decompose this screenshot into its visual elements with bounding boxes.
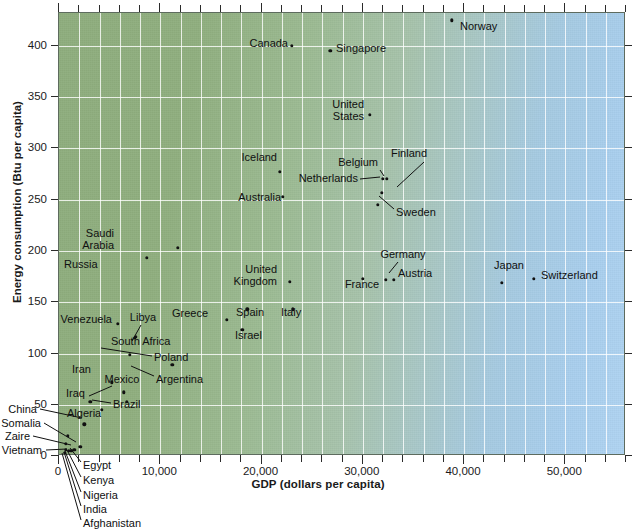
x-axis-tick-top <box>342 5 343 12</box>
point-label: Afghanistan <box>83 518 141 530</box>
x-axis-tick-top <box>200 5 201 12</box>
y-axis-tick-right <box>625 45 632 46</box>
x-axis-tick <box>605 455 606 462</box>
vertical-gridline <box>160 13 161 454</box>
x-axis-tick-top <box>564 3 565 12</box>
vertical-gridline <box>221 13 222 454</box>
x-tick-label: 10,000 <box>142 465 177 477</box>
x-axis-tick-top <box>281 5 282 12</box>
y-axis-tick <box>51 455 58 456</box>
point-label: South Africa <box>111 336 170 348</box>
data-point <box>63 451 66 454</box>
x-axis-tick <box>483 455 484 462</box>
x-axis-tick <box>443 455 444 462</box>
x-axis-tick-top <box>423 5 424 12</box>
vertical-gridline <box>282 13 283 454</box>
x-axis-tick <box>240 455 241 462</box>
x-axis-tick-top <box>504 5 505 12</box>
horizontal-gridline <box>59 354 624 355</box>
x-axis-tick <box>564 455 565 464</box>
point-label: Norway <box>460 21 497 33</box>
x-tick-label: 40,000 <box>445 465 480 477</box>
x-axis-tick-top <box>119 5 120 12</box>
vertical-gridline <box>424 13 425 454</box>
point-label: Canada <box>249 38 288 50</box>
point-label: United Kingdom <box>234 264 277 287</box>
plot-texture-overlay <box>59 13 624 454</box>
vertical-gridline <box>606 13 607 454</box>
x-axis-tick <box>625 455 626 462</box>
point-label: Russia <box>64 259 98 271</box>
point-label: India <box>83 504 107 516</box>
x-axis-tick <box>382 455 383 462</box>
y-axis-tick <box>51 199 58 200</box>
x-axis-tick-top <box>261 3 262 12</box>
x-axis-tick-top <box>139 5 140 12</box>
x-axis-tick-top <box>524 5 525 12</box>
point-label: Libya <box>130 312 156 324</box>
vertical-gridline <box>403 13 404 454</box>
point-label: Venezuela <box>61 314 112 326</box>
vertical-gridline <box>586 13 587 454</box>
x-axis-tick <box>180 455 181 462</box>
vertical-gridline <box>363 13 364 454</box>
horizontal-gridline <box>59 302 624 303</box>
horizontal-gridline <box>59 405 624 406</box>
y-axis-tick-right <box>625 250 632 251</box>
vertical-gridline <box>262 13 263 454</box>
point-label: France <box>345 279 379 291</box>
point-label: Germany <box>380 249 425 261</box>
x-tick-label: 30,000 <box>344 465 379 477</box>
x-axis-tick <box>362 455 363 464</box>
x-axis-tick <box>261 455 262 464</box>
y-tick-label: 350 <box>0 90 47 102</box>
vertical-gridline <box>140 13 141 454</box>
y-axis-tick <box>51 250 58 251</box>
point-label: Mexico <box>105 374 140 386</box>
point-label: Italy <box>281 307 301 319</box>
x-tick-label: 0 <box>55 465 61 477</box>
x-axis-tick-top <box>463 3 464 12</box>
y-axis-title: Energy consumption (Btu per capita) <box>11 87 23 317</box>
point-label: China <box>8 404 37 416</box>
horizontal-gridline <box>59 251 624 252</box>
x-axis-tick <box>544 455 545 462</box>
y-axis-tick-right <box>625 455 632 456</box>
x-axis-tick <box>463 455 464 464</box>
x-axis-tick <box>281 455 282 462</box>
point-label: Greece <box>172 308 208 320</box>
horizontal-gridline <box>59 200 624 201</box>
point-label: Sweden <box>396 207 436 219</box>
y-axis-tick-right <box>625 353 632 354</box>
y-axis-tick-right <box>625 199 632 200</box>
x-axis-tick <box>423 455 424 462</box>
point-label: Belgium <box>338 157 378 169</box>
y-axis-tick-right <box>625 301 632 302</box>
x-axis-tick-top <box>240 5 241 12</box>
x-axis-tick-top <box>220 5 221 12</box>
x-axis-tick-top <box>585 5 586 12</box>
y-tick-label: 300 <box>0 141 47 153</box>
vertical-gridline <box>343 13 344 454</box>
x-axis-tick-top <box>625 5 626 12</box>
point-label: Egypt <box>83 460 111 472</box>
x-axis-tick-top <box>544 5 545 12</box>
x-axis-tick-top <box>180 5 181 12</box>
y-axis-tick <box>51 147 58 148</box>
point-label: Zaire <box>5 431 30 443</box>
vertical-gridline <box>444 13 445 454</box>
x-axis-tick-top <box>321 5 322 12</box>
y-tick-label: 150 <box>0 295 47 307</box>
x-axis-tick <box>301 455 302 462</box>
point-label: Algeria <box>67 408 101 420</box>
horizontal-gridline <box>59 148 624 149</box>
vertical-gridline <box>383 13 384 454</box>
point-label: Iceland <box>242 152 277 164</box>
x-axis-tick-top <box>301 5 302 12</box>
point-label: Israel <box>235 330 262 342</box>
x-axis-tick-top <box>78 5 79 12</box>
vertical-gridline <box>201 13 202 454</box>
x-axis-tick <box>321 455 322 462</box>
point-label: Vietnam <box>2 445 42 457</box>
